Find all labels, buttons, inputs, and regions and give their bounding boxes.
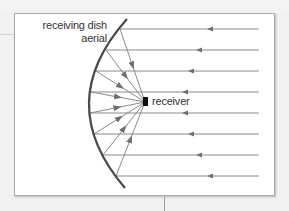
reflected-rays xyxy=(90,29,145,176)
dish-label-line2: aerial xyxy=(43,32,107,45)
dish-label: receiving dish aerial xyxy=(43,19,107,45)
receiver-label: receiver xyxy=(152,95,190,108)
dish-label-line1: receiving dish xyxy=(43,19,107,32)
receiver-icon xyxy=(143,97,148,106)
